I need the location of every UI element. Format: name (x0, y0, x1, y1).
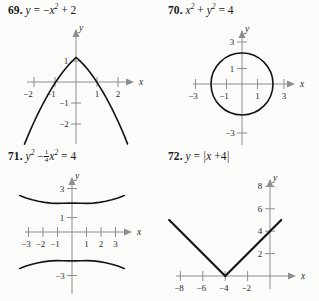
eq-equals: = (194, 150, 201, 162)
hyperbola-plot-svg: −3 −2 −1 1 2 3 3 1 −3 x y (0, 164, 159, 299)
x-ticklabel-3: 3 (282, 91, 287, 101)
x-ticklabel--1: −1 (219, 91, 229, 101)
problem-71-graph: −3 −2 −1 1 2 3 3 1 −3 x y (0, 164, 159, 296)
problem-72-number: 72. (168, 150, 183, 162)
eq-constant: 2 (71, 4, 77, 16)
x-ticklabel-1: 1 (255, 91, 260, 101)
absolute-value-plot-svg: −8 −6 −4 −2 2 4 6 8 x y (160, 164, 319, 299)
problem-69-prompt: 69. y = −x2 + 2 (8, 2, 76, 18)
problem-72: 72. y = |x +4| (160, 146, 319, 296)
problem-71-prompt: 71. y2 −14x2 = 4 (8, 148, 76, 164)
problem-72-equation: y = |x +4| (186, 150, 230, 162)
eq-plus: + (197, 4, 204, 16)
y-ticklabel-3: 3 (230, 37, 235, 47)
y-ticklabel--2: −2 (59, 119, 69, 129)
x-ticklabel-2: 2 (99, 239, 104, 249)
problem-70-graph: −3 −1 1 3 3 1 −3 x y (160, 18, 319, 150)
problem-71-number: 71. (8, 150, 23, 162)
x-ticklabel-2: 2 (116, 89, 121, 99)
problem-69-graph: −2 −1 1 2 1 −1 −2 x y (0, 18, 159, 150)
y-ticklabel--1: −1 (59, 98, 69, 108)
y-ticklabel-1: 1 (230, 64, 235, 74)
x-ticklabel--4: −4 (219, 283, 229, 293)
eq-base: x (206, 150, 211, 162)
x-axis-label: x (299, 79, 305, 89)
x-ticklabel-1: 1 (84, 239, 89, 249)
problem-70-prompt: 70. x2 + y2 = 4 (168, 2, 234, 18)
y-ticklabel--3: −3 (225, 128, 235, 138)
problem-72-prompt: 72. y = |x +4| (168, 148, 230, 164)
exercise-page: 69. y = −x2 + 2 (0, 0, 319, 301)
x-ticklabel-3: 3 (113, 239, 118, 249)
eq-equals: = (61, 150, 68, 162)
y-ticklabel-2: 2 (258, 249, 263, 259)
eq-exponent-x: 2 (191, 2, 195, 11)
y-axis-label: y (272, 173, 278, 183)
x-ticklabel--2: −2 (241, 283, 251, 293)
x-ticklabel--1: −1 (50, 239, 60, 249)
problem-70: 70. x2 + y2 = 4 (160, 0, 319, 150)
y-ticklabel--3: −3 (55, 271, 65, 281)
eq-exponent-y: 2 (31, 148, 35, 157)
y-axis-label: y (74, 171, 80, 181)
x-axis-label: x (136, 227, 142, 237)
x-ticklabel--8: −8 (174, 283, 184, 293)
x-axis-label: x (300, 271, 306, 281)
x-axis-label: x (138, 77, 144, 87)
x-ticklabel--3: −3 (188, 91, 198, 101)
x-ticklabel--6: −6 (197, 283, 207, 293)
problem-69: 69. y = −x2 + 2 (0, 0, 159, 150)
x-ticklabel--2: −2 (23, 89, 33, 99)
eq-equals: = (34, 4, 41, 16)
eq-rhs: 4 (228, 4, 234, 16)
x-ticklabel--2: −2 (36, 239, 46, 249)
eq-plus: + (61, 4, 68, 16)
problem-70-number: 70. (168, 4, 183, 16)
problem-69-number: 69. (8, 4, 23, 16)
problem-71: 71. y2 −14x2 = 4 (0, 146, 159, 296)
y-ticklabel-4: 4 (258, 226, 263, 236)
eq-exponent-x: 2 (54, 148, 58, 157)
y-ticklabel-1: 1 (60, 213, 65, 223)
eq-exponent-y: 2 (212, 2, 216, 11)
eq-lhs: y (186, 150, 191, 162)
y-ticklabel-3: 3 (60, 184, 65, 194)
eq-abs-close: | (226, 150, 229, 162)
absolute-value-left-arm (169, 220, 225, 276)
y-ticklabel-8: 8 (258, 181, 263, 191)
eq-lhs: y (26, 4, 31, 16)
y-ticklabel-1: 1 (64, 56, 69, 66)
circle-plot-svg: −3 −1 1 3 3 1 −3 x y (160, 18, 319, 150)
x-axis-arrow (287, 81, 295, 88)
x-ticklabel-1: 1 (95, 89, 100, 99)
x-ticklabel--3: −3 (21, 239, 31, 249)
y-ticklabel-6: 6 (258, 204, 263, 214)
eq-minus: − (37, 150, 44, 162)
eq-rhs: 4 (70, 150, 76, 162)
x-axis-arrow (288, 273, 296, 280)
eq-equals: = (218, 4, 225, 16)
x-axis-arrow (126, 79, 134, 86)
x-axis-arrow (124, 229, 132, 236)
parabola-plot-svg: −2 −1 1 2 1 −1 −2 x y (0, 18, 159, 150)
absolute-value-right-arm (225, 220, 281, 276)
problem-71-equation: y2 −14x2 = 4 (26, 150, 77, 162)
eq-exponent: 2 (55, 2, 59, 11)
y-axis-label: y (244, 24, 250, 34)
problem-70-equation: x2 + y2 = 4 (186, 4, 234, 16)
problem-72-graph: −8 −6 −4 −2 2 4 6 8 x y (160, 164, 319, 296)
problem-69-equation: y = −x2 + 2 (26, 4, 77, 16)
y-axis-label: y (78, 23, 84, 33)
